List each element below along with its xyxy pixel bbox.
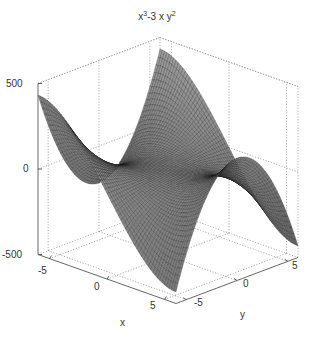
x-tick-5: 5 [150,301,156,311]
surface-plot [0,0,314,338]
y-tick-5: 5 [292,261,298,271]
z-tick-neg500: -500 [2,250,22,260]
surface-mesh [38,49,298,292]
x-tick-0: 0 [94,282,100,292]
z-tick-500: 500 [6,79,23,89]
y-tick-0: 0 [243,279,249,289]
chart-title: x3-3 x y2 [0,10,314,22]
y-axis-label: y [240,310,245,320]
y-tick-neg5: -5 [194,298,203,308]
x-axis-label: x [120,318,125,328]
x-tick-neg5: -5 [38,266,47,276]
z-tick-0: 0 [23,164,29,174]
